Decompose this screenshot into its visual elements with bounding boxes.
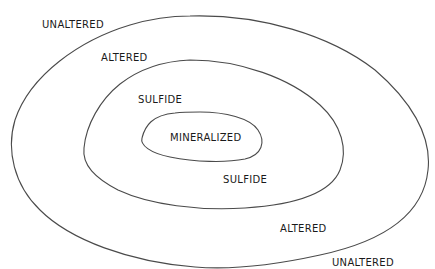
label-sulfide-bottom: SULFIDE <box>223 175 267 185</box>
label-altered-bottom: ALTERED <box>280 224 327 234</box>
label-sulfide-top: SULFIDE <box>138 95 182 105</box>
label-unaltered-top: UNALTERED <box>42 20 104 30</box>
label-altered-top: ALTERED <box>101 53 148 63</box>
label-unaltered-bottom: UNALTERED <box>332 258 394 268</box>
label-mineralized: MINERALIZED <box>170 133 241 143</box>
zonation-diagram: UNALTERED ALTERED SULFIDE MINERALIZED SU… <box>0 0 435 269</box>
